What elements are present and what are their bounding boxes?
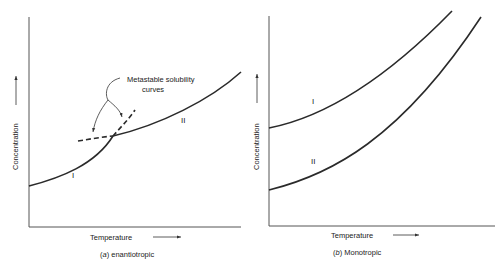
panel-b-axes <box>269 16 495 226</box>
panel-a-metastable-curve-I <box>113 110 135 136</box>
panel-a-label-II: II <box>181 116 185 125</box>
panel-a-axes <box>29 17 241 227</box>
panel-b-ylabel: Concentration <box>252 123 261 170</box>
panel-a-annotation-line1: Metastable solubility <box>127 75 195 84</box>
panel-a-annotation-arrow-2 <box>108 100 122 117</box>
panel-a-annotation-line2: curves <box>142 85 164 94</box>
panel-b-caption: (b) Monotropic <box>333 248 382 257</box>
panel-a-caption: (a) enantiotropic <box>100 250 154 259</box>
panel-a-caption-letter: a <box>103 250 107 259</box>
panel-b-caption-text: Monotropic <box>342 248 381 257</box>
panel-b-monotropic: I II Concentration Temperature (b) Monot… <box>252 11 495 257</box>
panel-b-xlabel: Temperature <box>331 231 373 240</box>
panel-a-enantiotropic: Metastable solubility curves I II Concen… <box>11 17 241 259</box>
panel-a-annotation-arrow-1 <box>93 78 120 132</box>
panel-b-curve-II <box>269 17 481 190</box>
solubility-diagrams: Metastable solubility curves I II Concen… <box>0 0 495 273</box>
panel-a-ylabel: Concentration <box>11 123 20 170</box>
panel-a-metastable-curve-II <box>78 136 113 141</box>
panel-b-curve-I <box>269 11 452 128</box>
panel-a-caption-text: enantiotropic <box>109 250 154 259</box>
panel-b-label-II: II <box>311 157 315 166</box>
panel-a-xlabel: Temperature <box>90 233 132 242</box>
panel-b-label-I: I <box>312 97 314 106</box>
panel-a-label-I: I <box>72 171 74 180</box>
panel-b-caption-letter: b <box>336 248 340 257</box>
panel-a-curve-I <box>29 136 113 186</box>
